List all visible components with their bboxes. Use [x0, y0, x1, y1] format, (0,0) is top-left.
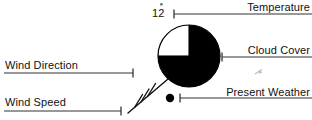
wind-direction-label: Wind Direction [5, 59, 78, 71]
present-weather-dot [166, 94, 174, 102]
temperature-value: 12 [152, 7, 164, 19]
cloud-cover-clear-quadrant [155, 22, 189, 56]
wind-speed-label: Wind Speed [5, 96, 66, 108]
present-weather-label: Present Weather [226, 86, 310, 98]
temperature-tick-mark [160, 3, 162, 5]
wind-barb-symbol [128, 79, 168, 113]
cloud-cover-label: Cloud Cover [248, 44, 310, 56]
scan-artifact-mark [255, 70, 262, 74]
cloud-cover-symbol [155, 22, 220, 87]
temperature-label: Temperature [247, 1, 310, 13]
weather-station-model-diagram: 12 Temperature Cloud Cover Present Weath… [0, 0, 312, 120]
